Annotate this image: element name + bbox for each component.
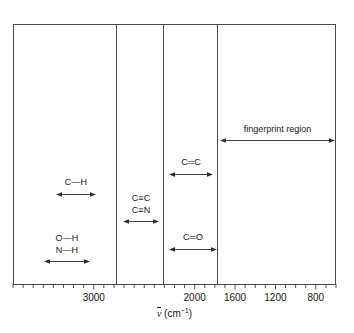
band-o-h-n-h: O—H N—H bbox=[44, 233, 90, 266]
band-c-triple-c-n: C≡C C≡N bbox=[123, 193, 159, 226]
band-c-double-c-labels: C═C bbox=[169, 157, 213, 169]
band-c-triple-c-n-labels: C≡C C≡N bbox=[123, 193, 159, 216]
band-c-triple-c-n-arrow bbox=[123, 217, 159, 226]
band-label: C═O bbox=[169, 232, 217, 244]
axis-tick-label: 3000 bbox=[83, 292, 105, 304]
axis-tick-label: 1600 bbox=[224, 292, 246, 304]
band-label: C≡N bbox=[123, 205, 159, 217]
axis-tick-label: 800 bbox=[307, 292, 324, 304]
band-o-h-n-h-labels: O—H N—H bbox=[44, 233, 90, 256]
x-axis-title: ν (cm−1) bbox=[13, 307, 336, 320]
x-axis-ticks bbox=[13, 284, 336, 292]
band-label: C═C bbox=[169, 157, 213, 169]
band-c-double-o-labels: C═O bbox=[169, 232, 217, 244]
band-c-double-c: C═C bbox=[169, 157, 213, 179]
band-c-h-arrow bbox=[56, 190, 96, 199]
region-fingerprint: fingerprint region bbox=[220, 124, 335, 145]
region-fingerprint-arrow bbox=[220, 136, 335, 145]
band-c-h: C—H bbox=[56, 177, 96, 199]
band-c-double-c-arrow bbox=[169, 170, 213, 179]
axis-unit-suffix: ) bbox=[189, 308, 192, 319]
band-c-double-o: C═O bbox=[169, 232, 217, 254]
band-label: O—H bbox=[44, 233, 90, 245]
region-fingerprint-label: fingerprint region bbox=[220, 124, 335, 135]
band-o-h-n-h-arrow bbox=[44, 257, 90, 266]
axis-tick-label: 1200 bbox=[264, 292, 286, 304]
divider-line-2700 bbox=[116, 25, 117, 284]
band-c-double-o-arrow bbox=[169, 245, 217, 254]
divider-line-1950 bbox=[163, 25, 164, 284]
band-c-h-labels: C—H bbox=[56, 177, 96, 189]
axis-unit-exponent: −1 bbox=[181, 307, 189, 314]
plot-frame: fingerprint region C═C bbox=[13, 24, 336, 285]
band-label: C≡C bbox=[123, 193, 159, 205]
axis-unit-prefix: (cm bbox=[164, 308, 181, 319]
band-label: C—H bbox=[56, 177, 96, 189]
axis-tick-label: 2000 bbox=[184, 292, 206, 304]
ir-absorption-region-chart: fingerprint region C═C bbox=[0, 0, 354, 333]
x-axis-tick-labels: 3000200016001200800 bbox=[13, 292, 336, 306]
band-label: N—H bbox=[44, 245, 90, 257]
divider-line-1680 bbox=[217, 25, 218, 284]
